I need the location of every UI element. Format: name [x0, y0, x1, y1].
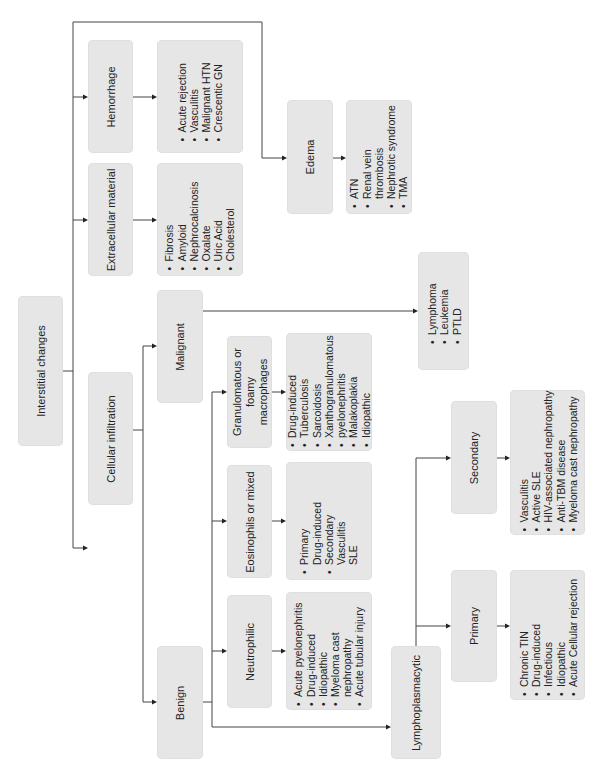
node-edema: Edema — [287, 100, 333, 214]
list-malignant-types: Lymphoma Leukemia PTLD — [418, 252, 469, 370]
list-item: Myeloma cast — [329, 602, 341, 706]
list-item: thrombosis — [373, 105, 385, 208]
list-item: Acute tubular injury — [353, 602, 365, 706]
list-item: ATN — [348, 105, 360, 208]
node-label: Neutrophilic — [243, 622, 256, 680]
list-extracellular-causes: Fibrosis Amyloid Nephrocalcinosis Oxalat… — [157, 163, 243, 276]
list-item: Amyloid — [176, 181, 188, 270]
node-label: Secondary — [468, 431, 481, 484]
list-item: Cholesterol — [224, 181, 236, 270]
list-item: Drug-induced — [305, 602, 317, 706]
list-item: Vasculitis — [517, 390, 529, 531]
node-malignant: Malignant — [157, 290, 203, 403]
node-benign: Benign — [157, 646, 203, 759]
node-label: Interstitial changes — [34, 325, 47, 417]
node-label: Malignant — [174, 323, 187, 371]
node-granulomatous: Granulomatous or foamy macrophages — [227, 336, 272, 448]
list-item: Xanthogranulomatous — [323, 335, 335, 447]
list-item: SLE — [347, 502, 359, 574]
node-label: Edema — [304, 140, 317, 175]
list-item: Drug-induced — [529, 579, 541, 696]
node-hemorrhage: Hemorrhage — [88, 40, 133, 153]
node-cellular-infiltration: Cellular infiltration — [88, 372, 133, 505]
list-item: Uric Acid — [212, 181, 224, 270]
list-item: Drug-induced — [311, 502, 323, 574]
list-item: Nephrotic syndrome — [385, 105, 397, 208]
list-eosinophils-causes: Primary Drug-induced Secondary Vasculiti… — [286, 462, 372, 580]
node-label: Lymphoplasmacytic — [410, 654, 423, 750]
list-item: Drug-induced — [286, 335, 298, 447]
list-item: Oxalate — [200, 181, 212, 270]
list-item: TMA — [397, 105, 409, 208]
list-item: Chronic TIN — [517, 579, 529, 696]
node-label-line: foamy — [243, 377, 256, 407]
list-item: Sarcoidosis — [311, 335, 323, 447]
list-granulomatous-causes: Drug-induced Tuberculosis Sarcoidosis Xa… — [286, 333, 372, 451]
list-hemorrhage-causes: Acute rejection Vasculitis Malignant HTN… — [157, 40, 243, 153]
list-item: nephropathy — [341, 602, 353, 706]
list-item: Tuberculosis — [298, 335, 310, 447]
list-item: Lymphoma — [425, 283, 437, 344]
list-item: Nephrocalcinosis — [188, 181, 200, 270]
node-interstitial-changes: Interstitial changes — [18, 296, 63, 446]
node-label: Benign — [174, 685, 187, 719]
list-item: Acute rejection — [176, 62, 188, 141]
node-primary: Primary — [451, 570, 497, 682]
list-item: Acute Cellular rejection — [566, 579, 578, 696]
list-item: Idiopathic — [554, 579, 566, 696]
list-item: Idiopathic — [360, 335, 372, 447]
list-item: Malakoplakia — [347, 335, 359, 447]
node-label-line: Granulomatous or — [230, 348, 243, 436]
list-primary-causes: Chronic TIN Drug-induced Infectious Idio… — [510, 570, 585, 700]
node-extracellular-material: Extracellular material — [88, 163, 133, 276]
list-item: HIV-associated nephropathy — [541, 390, 553, 531]
node-lymphoplasmacytic: Lymphoplasmacytic — [391, 646, 441, 759]
list-item: pyelonephritis — [335, 335, 347, 447]
list-neutrophilic-causes: Acute pyelonephritis Drug-induced Idiopa… — [286, 592, 372, 710]
node-label: Extracellular material — [104, 168, 117, 271]
list-edema-causes: ATN Renal vein thrombosis Nephrotic synd… — [346, 100, 412, 214]
list-item: Anti-TBM disease — [554, 390, 566, 531]
list-item: PTLD — [450, 283, 462, 344]
list-item: Acute pyelonephritis — [292, 602, 304, 706]
list-item: Renal vein — [361, 105, 373, 208]
list-item: Idiopathic — [317, 602, 329, 706]
node-neutrophilic: Neutrophilic — [227, 595, 272, 708]
list-item: Fibrosis — [163, 181, 175, 270]
list-item: Primary — [298, 502, 310, 574]
list-secondary-causes: Vasculitis Active SLE HIV-associated nep… — [510, 390, 585, 535]
list-item: Leukemia — [437, 283, 449, 344]
list-item: Myeloma cast nephropathy — [566, 390, 578, 531]
node-secondary: Secondary — [451, 401, 497, 514]
list-item: Secondary — [323, 502, 335, 574]
node-label: Primary — [468, 607, 481, 645]
list-item: Active SLE — [529, 390, 541, 531]
node-eosinophils: Eosinophils or mixed — [227, 465, 272, 578]
node-label: Eosinophils or mixed — [243, 471, 256, 573]
list-item: Infectious — [541, 579, 553, 696]
node-label-line: macrophages — [256, 359, 269, 426]
list-item: Crescentic GN — [212, 62, 224, 141]
list-item: Vasculitis — [335, 502, 347, 574]
node-label: Cellular infiltration — [104, 395, 117, 482]
node-label: Hemorrhage — [104, 66, 117, 127]
list-item: Vasculitis — [188, 62, 200, 141]
list-item: Malignant HTN — [200, 62, 212, 141]
